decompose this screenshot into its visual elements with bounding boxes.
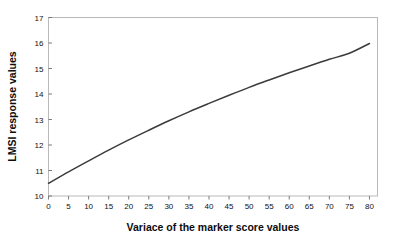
- x-tick-label: 30: [164, 202, 173, 211]
- x-axis-title: Variace of the marker score values: [127, 221, 300, 233]
- y-tick-label: 10: [35, 192, 44, 201]
- y-tick-label: 15: [35, 65, 44, 74]
- x-tick-label: 15: [104, 202, 113, 211]
- x-tick-label: 25: [144, 202, 153, 211]
- x-tick-label: 65: [305, 202, 314, 211]
- x-tick-label: 20: [124, 202, 133, 211]
- x-tick-label: 55: [265, 202, 274, 211]
- x-tick-label: 35: [184, 202, 193, 211]
- x-tick-label: 75: [345, 202, 354, 211]
- line-chart: 05101520253035404550556065707580 1011121…: [0, 0, 406, 243]
- plot-area-frame: [49, 18, 378, 197]
- y-tick-label: 17: [35, 14, 44, 23]
- x-tick-label: 40: [205, 202, 214, 211]
- x-tick-label: 60: [285, 202, 294, 211]
- y-axis-title: LMSI response values: [6, 51, 18, 161]
- x-tick-label: 5: [66, 202, 71, 211]
- x-tick-label: 70: [325, 202, 334, 211]
- y-tick-label: 12: [35, 141, 44, 150]
- chart-figure: 05101520253035404550556065707580 1011121…: [0, 0, 406, 243]
- x-tick-label: 80: [365, 202, 374, 211]
- y-tick-label: 14: [35, 90, 44, 99]
- x-tick-label: 10: [84, 202, 93, 211]
- y-tick-label: 16: [35, 39, 44, 48]
- y-tick-label: 13: [35, 116, 44, 125]
- x-tick-label: 45: [225, 202, 234, 211]
- x-tick-label: 0: [46, 202, 51, 211]
- y-tick-label: 11: [35, 167, 44, 176]
- x-tick-label: 50: [245, 202, 254, 211]
